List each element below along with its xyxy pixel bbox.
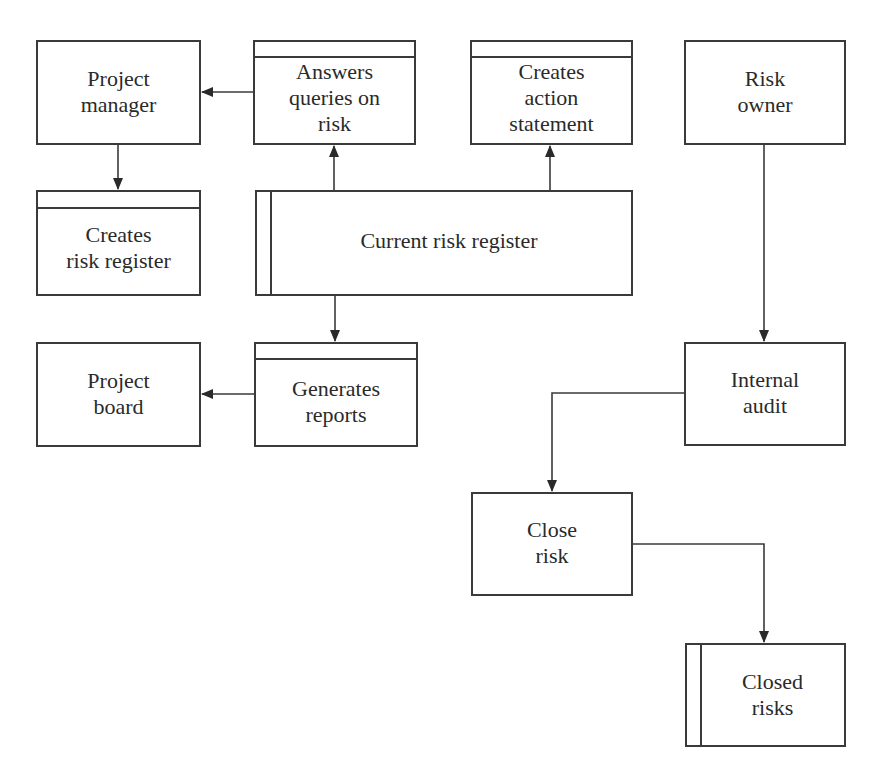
process-header-band	[255, 42, 414, 58]
node-project-board: Project board	[36, 342, 201, 447]
process-header-band	[472, 42, 631, 58]
node-label: Internal audit	[686, 367, 844, 419]
node-creates-action-statement: Creates action statement	[470, 40, 633, 145]
process-header-band	[38, 192, 199, 209]
node-label: Creates action statement	[472, 59, 631, 137]
node-label: Closed risks	[701, 669, 844, 721]
node-label: Answers queries on risk	[255, 59, 414, 137]
node-creates-risk-register: Creates risk register	[36, 190, 201, 296]
node-close-risk: Close risk	[471, 492, 633, 596]
node-current-risk-register: Current risk register	[255, 190, 633, 296]
node-answers-queries: Answers queries on risk	[253, 40, 416, 145]
node-label: Project board	[38, 368, 199, 420]
node-label: Close risk	[473, 517, 631, 569]
node-label: Project manager	[38, 66, 199, 118]
data-store-bar	[687, 645, 702, 745]
node-internal-audit: Internal audit	[684, 342, 846, 446]
node-label: Generates reports	[256, 376, 416, 428]
node-project-manager: Project manager	[36, 40, 201, 145]
edge-audit-to-close	[552, 393, 684, 491]
node-closed-risks: Closed risks	[685, 643, 846, 747]
process-header-band	[256, 344, 416, 360]
node-risk-owner: Risk owner	[684, 40, 846, 145]
node-label: Risk owner	[686, 66, 844, 118]
node-generates-reports: Generates reports	[254, 342, 418, 447]
edge-close-to-closed	[632, 544, 764, 642]
node-label: Current risk register	[267, 228, 631, 254]
node-label: Creates risk register	[38, 222, 199, 274]
